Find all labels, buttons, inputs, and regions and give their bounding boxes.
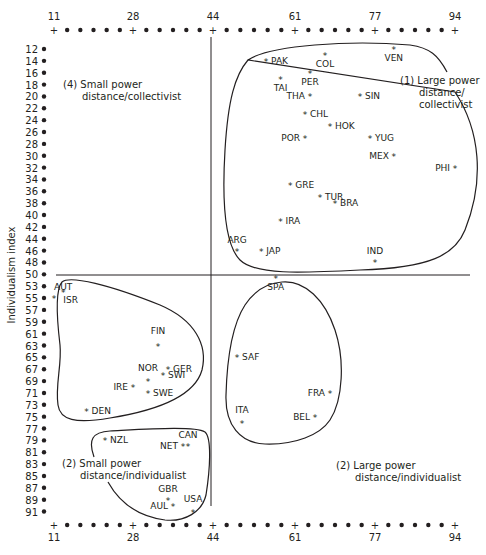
- axis-dot: [42, 237, 46, 241]
- axis-dot: [386, 28, 390, 32]
- axis-dot: [42, 426, 46, 430]
- axis-dot: [42, 94, 46, 98]
- axis-dot: [42, 403, 46, 407]
- axis-dot: [279, 523, 283, 527]
- data-point-fin: *FIN: [151, 326, 166, 352]
- axis-dot: [252, 523, 256, 527]
- axis-dot: [91, 523, 95, 527]
- axis-dot: [42, 320, 46, 324]
- data-point-chl: *CHL: [303, 109, 328, 120]
- star-marker-icon: *: [146, 377, 151, 387]
- axis-dot: [42, 462, 46, 466]
- axis-dot: [399, 523, 403, 527]
- data-point-per: *PER: [301, 69, 318, 87]
- country-label: GRE: [295, 180, 314, 190]
- x-tick-label: 94: [449, 11, 462, 22]
- country-label: THA: [286, 91, 306, 101]
- star-marker-icon: *: [161, 371, 166, 381]
- data-point-yug: *YUG: [368, 133, 394, 144]
- data-point-ire: *IRE: [113, 382, 135, 393]
- data-point-saf: *SAF: [235, 352, 259, 363]
- axis-dot: [78, 523, 82, 527]
- x-tick-label: 61: [289, 11, 302, 22]
- data-point-sin: *SIN: [358, 91, 380, 102]
- data-point-arg: *ARG: [227, 235, 246, 257]
- axis-dot: [42, 248, 46, 252]
- axis-dot: [157, 523, 161, 527]
- star-marker-icon: *: [84, 407, 89, 417]
- data-point-ven: *VEN: [385, 45, 404, 63]
- star-marker-icon: *: [103, 436, 108, 446]
- axis-dot: [42, 177, 46, 181]
- star-marker-icon: *: [453, 164, 458, 174]
- axis-dot: [42, 308, 46, 312]
- country-label: VEN: [385, 53, 404, 63]
- axis-dot: [426, 28, 430, 32]
- axis-dot: [91, 28, 95, 32]
- data-point-mex: *MEX: [369, 151, 396, 162]
- axis-dot: [171, 28, 175, 32]
- y-tick-label: 20: [25, 91, 38, 102]
- star-marker-icon: *: [191, 508, 196, 518]
- axis-dot: [42, 130, 46, 134]
- data-point-swe: *SWE: [146, 388, 174, 399]
- y-axis-label: Individualism index: [6, 226, 17, 323]
- star-marker-icon: *: [235, 247, 240, 257]
- axis-dot: [42, 260, 46, 264]
- star-marker-icon: *: [146, 389, 151, 399]
- axis-dot: [42, 213, 46, 217]
- data-point-spa: *SPA: [267, 274, 285, 292]
- country-label: IRE: [113, 382, 128, 392]
- y-tick-label: 59: [25, 317, 38, 328]
- axis-dot: [42, 118, 46, 122]
- axis-dot: [42, 71, 46, 75]
- data-point-tha: *THA: [286, 91, 313, 102]
- axis-dot: [171, 523, 175, 527]
- x-tick-label: 94: [449, 532, 462, 543]
- axis-dot: [333, 28, 337, 32]
- x-tick-plus: +: [129, 25, 137, 36]
- axis-dot: [104, 523, 108, 527]
- country-label: PHI: [435, 163, 450, 173]
- axis-dot: [224, 28, 228, 32]
- axis-dot: [42, 296, 46, 300]
- y-tick-label: 18: [25, 80, 38, 91]
- y-tick-label: 57: [25, 305, 38, 316]
- left-y-axis: 1214161820222426283032343638404244464850…: [25, 44, 46, 518]
- country-label: FRA: [308, 388, 326, 398]
- y-tick-label: 79: [25, 435, 38, 446]
- axis-dot: [42, 474, 46, 478]
- y-tick-label: 30: [25, 151, 38, 162]
- y-tick-label: 75: [25, 412, 38, 423]
- axis-dot: [42, 391, 46, 395]
- data-point-jap: *JAP: [259, 246, 281, 257]
- cultural-dimensions-scatter-chart: +11+28+44+61+77+94 +11+28+44+61+77+94 12…: [0, 0, 486, 555]
- x-tick-label: 44: [207, 11, 220, 22]
- country-label: ARG: [227, 235, 246, 245]
- data-point-phi: *PHI: [435, 163, 458, 174]
- y-tick-label: 89: [25, 495, 38, 506]
- x-tick-plus: +: [451, 25, 459, 36]
- star-marker-icon: *: [171, 502, 176, 512]
- top-x-axis: +11+28+44+61+77+94: [48, 11, 462, 36]
- y-tick-label: 69: [25, 376, 38, 387]
- data-point-fra: *FRA: [308, 388, 333, 399]
- axis-dot: [65, 523, 69, 527]
- x-tick-plus: +: [209, 25, 217, 36]
- y-tick-label: 53: [25, 281, 38, 292]
- x-tick-label: 11: [48, 532, 61, 543]
- y-tick-label: 36: [25, 186, 38, 197]
- star-marker-icon: *: [328, 122, 333, 132]
- axis-dot: [42, 414, 46, 418]
- axis-dot: [386, 523, 390, 527]
- axis-dot: [413, 28, 417, 32]
- star-marker-icon: *: [240, 419, 245, 429]
- x-tick-plus: +: [129, 520, 137, 531]
- country-label: USA: [184, 494, 203, 504]
- star-marker-icon: *: [373, 258, 378, 268]
- axis-dot: [252, 28, 256, 32]
- axis-dot: [238, 523, 242, 527]
- country-label: NZL: [110, 435, 128, 445]
- x-tick-label: 77: [369, 532, 382, 543]
- axis-dot: [42, 343, 46, 347]
